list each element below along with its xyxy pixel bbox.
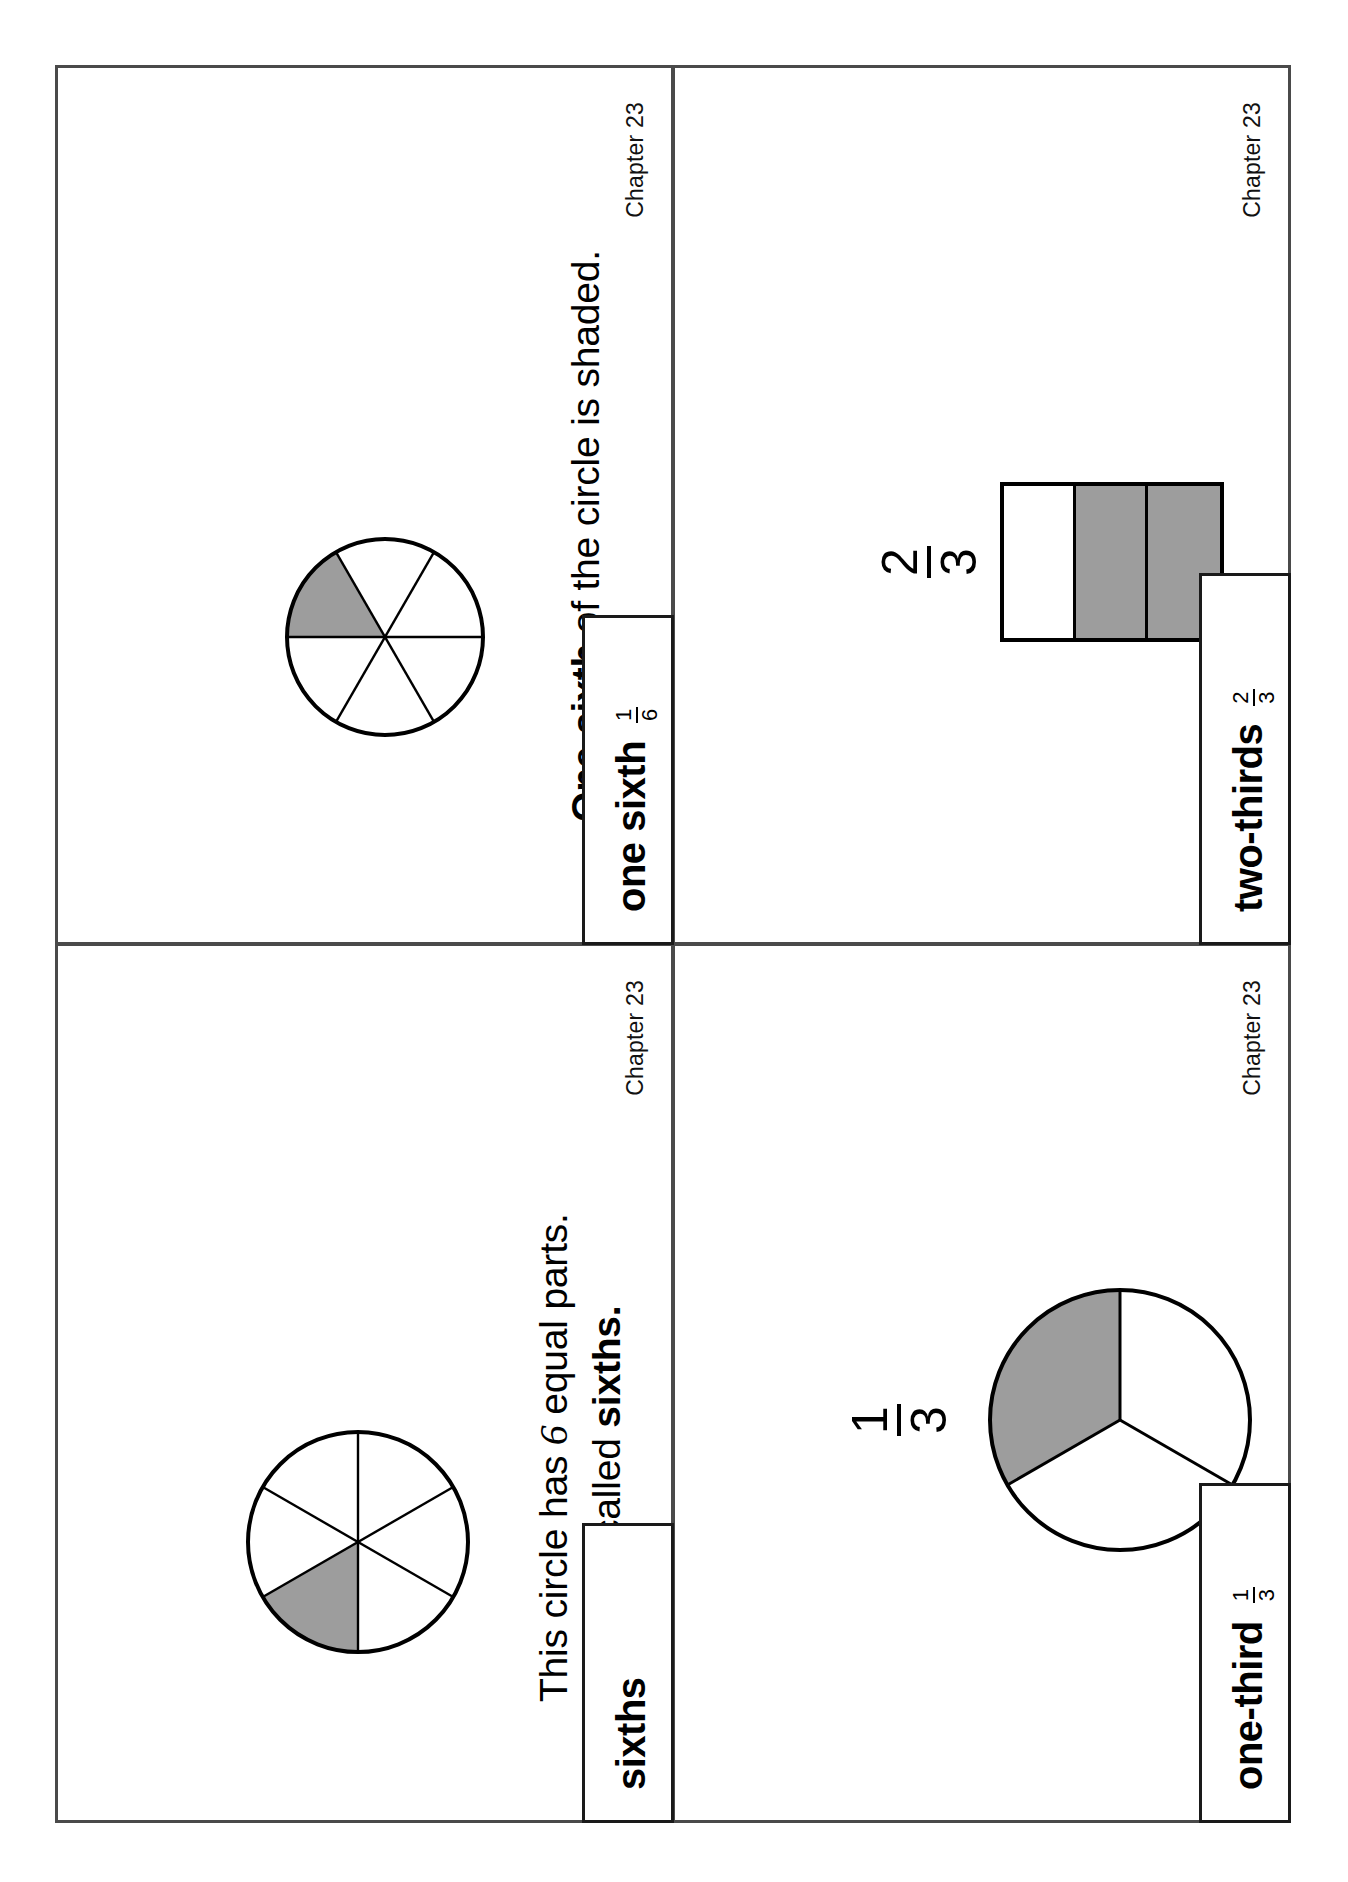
term-label: one-third bbox=[1202, 1621, 1294, 1790]
flash-card-one-third: 1 3 one-third 1 3 Chapter 2 bbox=[673, 944, 1291, 1823]
fraction-denominator: 3 bbox=[931, 546, 984, 578]
term-box-sixths: sixths bbox=[582, 1523, 674, 1823]
flash-card-two-thirds: 2 3 two-thirds 2 3 Chapter 23 bbox=[673, 65, 1291, 944]
chapter-stamp: Chapter 23 bbox=[1239, 980, 1266, 1096]
pie-slice-shaded bbox=[263, 1542, 358, 1652]
body-text-fragment: This circle has bbox=[532, 1445, 575, 1702]
body-text-fragment: of the circle is shaded. bbox=[564, 250, 607, 644]
pie-slice-shaded bbox=[287, 552, 385, 637]
chapter-stamp: Chapter 23 bbox=[1239, 102, 1266, 218]
term-fraction: 2 3 bbox=[1230, 689, 1278, 705]
flash-card-sheet: This circle has 6 equal parts. They are … bbox=[29, 35, 1319, 1847]
body-text-fragment: equal parts. bbox=[532, 1213, 575, 1425]
body-text-emphasis: 6 bbox=[531, 1425, 576, 1445]
fraction-denominator: 3 bbox=[1255, 689, 1278, 705]
flash-card-one-sixth: One-sixth of the circle is shaded. one s… bbox=[55, 65, 673, 944]
two-thirds-bar-figure: 2 3 bbox=[875, 482, 1224, 642]
fraction-denominator: 3 bbox=[901, 1404, 954, 1436]
chapter-stamp: Chapter 23 bbox=[622, 980, 649, 1096]
fraction-bar bbox=[1000, 482, 1224, 642]
pie-slice-shaded bbox=[990, 1290, 1120, 1485]
term-label: sixths bbox=[585, 1677, 677, 1790]
term-fraction: 1 6 bbox=[613, 707, 661, 723]
figure-fraction-label: 1 3 bbox=[845, 1404, 954, 1436]
one-sixth-pie-figure bbox=[270, 522, 500, 752]
sixths-pie-figure bbox=[228, 1412, 488, 1672]
figure-fraction-label: 2 3 bbox=[875, 546, 984, 578]
term-fraction: 1 3 bbox=[1230, 1587, 1278, 1603]
flash-card-sixths: This circle has 6 equal parts. They are … bbox=[55, 944, 673, 1823]
bar-cell-2 bbox=[1076, 486, 1148, 638]
term-label: one sixth bbox=[585, 741, 677, 912]
bar-cell-1 bbox=[1004, 486, 1076, 638]
term-label: two-thirds bbox=[1202, 724, 1294, 912]
term-box-two-thirds: two-thirds 2 3 bbox=[1199, 573, 1291, 945]
fraction-numerator: 1 bbox=[613, 707, 638, 723]
pie-chart-one-sixth bbox=[270, 522, 500, 752]
body-text-bold: sixths. bbox=[585, 1306, 628, 1428]
pie-chart-sixths bbox=[228, 1412, 488, 1672]
term-box-one-third: one-third 1 3 bbox=[1199, 1483, 1291, 1823]
pie-divider bbox=[1120, 1420, 1233, 1485]
fraction-numerator: 1 bbox=[1230, 1587, 1255, 1603]
term-box-one-sixth: one sixth 1 6 bbox=[582, 615, 674, 945]
fraction-numerator: 1 bbox=[845, 1404, 901, 1436]
fraction-numerator: 2 bbox=[1230, 689, 1255, 705]
chapter-stamp: Chapter 23 bbox=[622, 102, 649, 218]
fraction-numerator: 2 bbox=[875, 546, 931, 578]
fraction-denominator: 6 bbox=[638, 707, 661, 723]
body-line-1: This circle has 6 equal parts. bbox=[528, 1213, 581, 1702]
fraction-denominator: 3 bbox=[1255, 1587, 1278, 1603]
